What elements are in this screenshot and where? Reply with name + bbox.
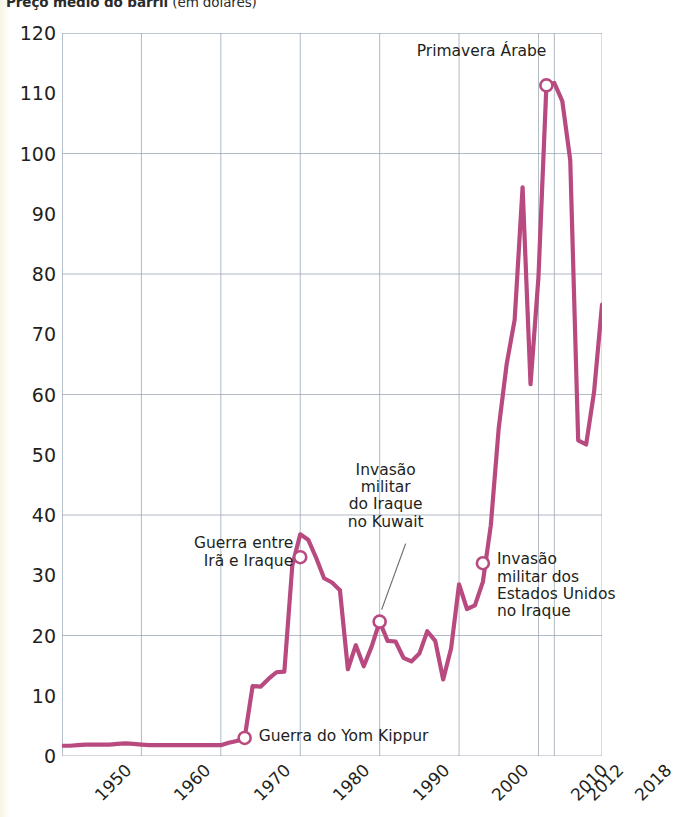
y-axis-tick-label: 30 [8, 566, 56, 585]
annotation-line: Primavera Árabe [410, 43, 546, 60]
x-axis-tick-label: 1980 [329, 760, 374, 805]
annotation-ira-iraque: Guerra entreIrã e Iraque [117, 535, 293, 570]
annotation-kuwait: Invasãomilitardo Iraqueno Kuwait [318, 462, 454, 531]
annotation-line: no Iraque [497, 603, 616, 620]
annotation-line: no Kuwait [318, 514, 454, 531]
chart-title-light: (em dólares) [168, 0, 257, 10]
annotation-line: Invasão [497, 551, 616, 568]
annotation-marker-primavera-arabe [540, 79, 552, 91]
chart-title-strong: Preço médio do barril [6, 0, 168, 10]
annotation-line: militar dos [497, 569, 616, 586]
x-axis-tick-label: 1970 [249, 760, 294, 805]
data-series-line [62, 83, 602, 746]
annotation-primavera-arabe: Primavera Árabe [410, 43, 546, 60]
annotation-yom-kippur: Guerra do Yom Kippur [259, 728, 429, 745]
chart-title: Preço médio do barril (em dólares) [6, 0, 257, 10]
y-axis-tick-label: 10 [8, 686, 56, 705]
y-axis-tick-label: 0 [8, 747, 56, 766]
annotation-line: Irã e Iraque [117, 553, 293, 570]
annotation-marker-yom-kippur [239, 732, 251, 744]
x-axis-tick-labels: 195019601970198019902000201020122018 [62, 756, 610, 817]
y-axis-tick-label: 20 [8, 626, 56, 645]
y-axis-tick-label: 80 [8, 265, 56, 284]
x-axis-tick-label: 1950 [91, 760, 136, 805]
annotation-marker-ira-iraque [294, 551, 306, 563]
x-axis-tick-label: 2018 [631, 760, 675, 805]
y-axis-tick-label: 100 [8, 144, 56, 163]
annotation-marker-eua-iraque [477, 557, 489, 569]
annotation-marker-kuwait [374, 616, 386, 628]
y-axis-tick-label: 70 [8, 325, 56, 344]
chart-svg [62, 33, 602, 756]
y-axis-tick-label: 60 [8, 385, 56, 404]
grid-lines [62, 33, 602, 756]
annotation-line: Estados Unidos [497, 586, 616, 603]
y-axis-tick-labels: 0102030405060708090100110120 [0, 33, 56, 756]
y-axis-tick-label: 40 [8, 506, 56, 525]
annotation-line: militar [318, 479, 454, 496]
x-axis-tick-label: 2000 [488, 760, 533, 805]
y-axis-tick-label: 110 [8, 84, 56, 103]
annotation-eua-iraque: Invasãomilitar dosEstados Unidosno Iraqu… [497, 551, 616, 620]
annotation-line: Invasão [318, 462, 454, 479]
x-axis-tick-label: 1960 [170, 760, 215, 805]
annotation-leader-line [382, 544, 406, 610]
y-axis-tick-label: 50 [8, 445, 56, 464]
x-axis-tick-label: 1990 [408, 760, 453, 805]
y-axis-tick-label: 90 [8, 204, 56, 223]
annotation-line: Guerra entre [117, 535, 293, 552]
annotation-line: do Iraque [318, 496, 454, 513]
annotation-line: Guerra do Yom Kippur [259, 728, 429, 745]
plot-area [62, 33, 602, 756]
y-axis-tick-label: 120 [8, 24, 56, 43]
